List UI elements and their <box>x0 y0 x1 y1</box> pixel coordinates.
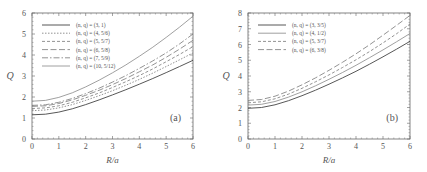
series-line <box>32 16 193 101</box>
legend-label: (n, q) = (5, 5/7) <box>76 38 110 45</box>
panel-label: (b) <box>386 112 398 124</box>
x-tick-label: 5 <box>381 142 385 151</box>
y-tick-label: 5 <box>22 30 26 39</box>
plot-frame <box>32 13 193 139</box>
series-line <box>248 15 410 100</box>
y-tick-label: 7 <box>238 25 242 34</box>
y-tick-label: 3 <box>22 72 26 81</box>
panel-label: (a) <box>170 112 181 124</box>
series-line <box>248 24 410 103</box>
y-tick-label: 8 <box>238 9 242 18</box>
x-tick-label: 2 <box>300 142 304 151</box>
series-line <box>32 40 193 106</box>
x-tick-label: 4 <box>137 142 141 151</box>
legend-label: (n, q) = (5, 3/7) <box>292 38 326 45</box>
x-tick-label: 0 <box>246 142 250 151</box>
y-tick-label: 1 <box>22 114 26 123</box>
legend-label: (n, q) = (6, 5/8) <box>76 47 110 54</box>
x-tick-label: 1 <box>273 142 277 151</box>
x-tick-label: 4 <box>354 142 358 151</box>
y-tick-label: 1 <box>238 119 242 128</box>
legend-label: (n, q) = (6, 3/8) <box>292 47 326 54</box>
y-tick-label: 4 <box>22 51 26 60</box>
x-axis-label: R/a <box>322 155 336 165</box>
legend-label: (n, q) = (4, 5/6) <box>76 30 110 37</box>
x-tick-label: 5 <box>164 142 168 151</box>
y-tick-label: 3 <box>238 88 242 97</box>
panel-b: 0123456012345678R/aQ(n, q) = (3, 3/5)(n,… <box>222 9 412 165</box>
x-tick-label: 1 <box>57 142 61 151</box>
legend-label: (n, q) = (7, 5/9) <box>76 55 110 62</box>
x-tick-label: 6 <box>408 142 412 151</box>
x-tick-label: 0 <box>30 142 34 151</box>
panel-a: 01234560123456R/aQ(n, q) = (3, 1)(n, q) … <box>6 9 195 165</box>
legend-label: (n, q) = (3, 3/5) <box>292 22 326 29</box>
y-tick-label: 6 <box>22 9 26 18</box>
x-tick-label: 3 <box>327 142 331 151</box>
legend-label: (n, q) = (10, 5/12) <box>76 63 116 70</box>
x-axis-label: R/a <box>105 155 119 165</box>
legend-label: (n, q) = (3, 1) <box>76 22 106 29</box>
figure: 01234560123456R/aQ(n, q) = (3, 1)(n, q) … <box>0 0 427 172</box>
y-tick-label: 0 <box>22 135 26 144</box>
y-tick-label: 2 <box>238 104 242 113</box>
x-tick-label: 2 <box>84 142 88 151</box>
y-axis-label: Q <box>222 70 230 81</box>
series-line <box>248 34 410 106</box>
y-tick-label: 6 <box>238 41 242 50</box>
y-tick-label: 0 <box>238 135 242 144</box>
y-axis-label: Q <box>6 70 14 81</box>
legend-label: (n, q) = (4, 1/2) <box>292 30 326 37</box>
y-tick-label: 4 <box>238 72 242 81</box>
x-tick-label: 6 <box>191 142 195 151</box>
x-tick-label: 3 <box>111 142 115 151</box>
y-tick-label: 5 <box>238 56 242 65</box>
y-tick-label: 2 <box>22 93 26 102</box>
